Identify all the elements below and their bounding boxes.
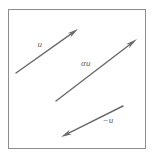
vector-diagram-figure: u αu −u bbox=[0, 0, 153, 157]
figure-border bbox=[9, 10, 146, 149]
vector-u-label: u bbox=[38, 39, 43, 49]
vector-minus-u-shaft bbox=[68, 106, 123, 133]
vector-alpha-u-group: αu bbox=[56, 39, 137, 101]
vector-alpha-u-shaft bbox=[56, 44, 130, 101]
vector-u-shaft bbox=[16, 34, 71, 73]
figure-canvas: u αu −u bbox=[0, 0, 153, 157]
vector-u-group: u bbox=[16, 29, 78, 73]
vector-minus-u-group: −u bbox=[61, 106, 123, 137]
vector-alpha-u-label: αu bbox=[81, 58, 91, 68]
vector-minus-u-arrowhead bbox=[61, 130, 72, 137]
vector-minus-u-label: −u bbox=[102, 115, 113, 125]
